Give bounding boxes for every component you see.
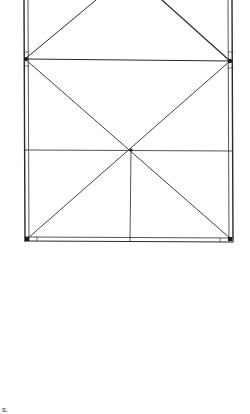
mid-beam [25, 59, 230, 61]
left-post-outer [24, 0, 25, 241]
center-post [130, 150, 131, 241]
node-mid-right [228, 59, 232, 63]
node-bottom-left [25, 237, 29, 241]
left-post-inner [28, 0, 29, 241]
center-beam [25, 150, 232, 151]
node-bottom-right [228, 237, 232, 241]
truss-diagram [0, 0, 250, 414]
top-right-diagonal [162, 0, 230, 61]
bottom-beam-lower [25, 241, 233, 242]
top-left-diagonal [25, 0, 96, 59]
right-post-outer [232, 0, 233, 241]
bottom-beam-upper [25, 237, 233, 238]
diag-midleft-to-bottomright [25, 59, 231, 239]
node-center [129, 148, 132, 151]
right-post-inner [228, 0, 229, 241]
footnote-mark: s. [2, 405, 8, 414]
node-mid-left [24, 57, 28, 61]
